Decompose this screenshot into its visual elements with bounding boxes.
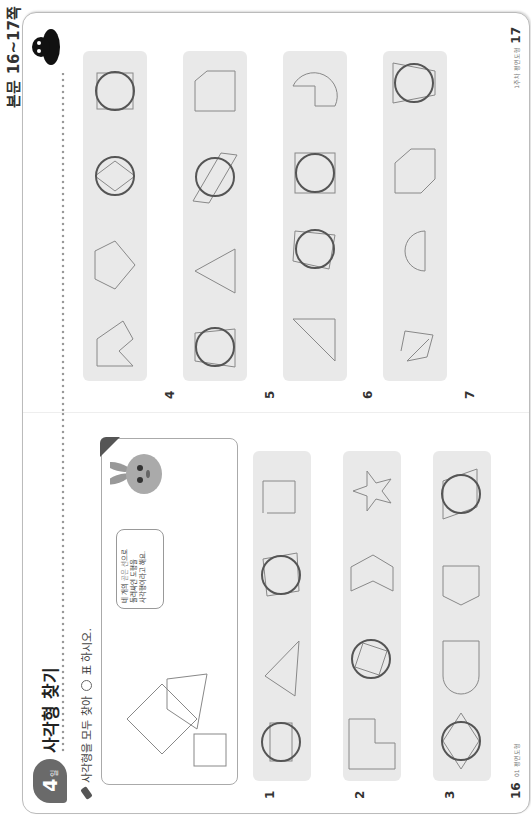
bubble-text: 사각형이라고 해요. (139, 551, 147, 603)
page-tag-right: 1주차 평면도형 (512, 47, 521, 89)
day-badge: 4일 (33, 759, 67, 803)
answer-circle (296, 154, 334, 192)
speech-bubble: 네 개의 곧은 선으로 둘러싸인 도형을 사각형이라고 해요. (116, 529, 164, 609)
page-number-right: 17 (509, 27, 523, 44)
dotted-rule-right (61, 73, 65, 413)
answer-circle (96, 72, 134, 110)
example-box: 네 개의 곧은 선으로 둘러싸인 도형을 사각형이라고 해요. (101, 438, 238, 785)
problem-number: 4 (163, 391, 177, 399)
answer-circle (296, 230, 334, 268)
answer-circle (442, 722, 480, 760)
bunny-icon (110, 444, 170, 504)
instruction-text: 사각형을 모두 찾아 (78, 696, 94, 783)
problem-5-strip (183, 51, 247, 381)
workbook-spread: 본문 16~17쪽 4일 사각형 찾기 사각형을 모두 찾아 표 하시오. (0, 0, 531, 822)
instruction: 사각형을 모두 찾아 표 하시오. (78, 628, 94, 799)
bubble-text: 둘러싸인 도형을 (130, 559, 138, 603)
problem-number: 7 (463, 391, 477, 399)
problem-number: 1 (263, 791, 277, 799)
problem-number: 3 (443, 791, 457, 799)
square-shape (194, 734, 226, 766)
problem-7-strip (383, 51, 447, 381)
workbook-sheet: 4일 사각형 찾기 사각형을 모두 찾아 표 하시오. (22, 12, 530, 814)
rhombus-shape (127, 684, 197, 754)
mascot-icon (29, 27, 63, 67)
answer-circle (96, 157, 134, 195)
problem-6-strip (283, 51, 347, 381)
bubble-text: 으로 (121, 549, 129, 561)
bubble-text: 네 개의 (121, 581, 129, 603)
trapezoid-shape (167, 674, 207, 729)
answer-circle (196, 328, 234, 366)
answer-circle (442, 475, 480, 513)
circle-mark-icon (81, 680, 92, 691)
problem-1-strip (253, 451, 311, 781)
bubble-highlight: 곧은 선 (121, 561, 129, 581)
problem-number: 5 (263, 391, 277, 399)
lesson-title: 사각형 찾기 (37, 667, 62, 753)
problem-3-strip (433, 451, 491, 781)
instruction-text-end: 표 하시오. (78, 628, 94, 675)
answer-circle (395, 64, 433, 102)
day-suffix: 일 (48, 770, 59, 777)
answer-circle (262, 723, 300, 761)
problem-number: 6 (361, 391, 375, 399)
pencil-icon (80, 786, 93, 800)
problem-number: 2 (353, 791, 367, 799)
page-tag-left: 01 평면도형 (512, 743, 521, 777)
page-divider (23, 412, 529, 413)
page-range-label: 본문 16~17쪽 (2, 6, 23, 108)
day-number: 4 (39, 778, 61, 791)
answer-circle (262, 556, 300, 594)
page-number-left: 16 (509, 782, 523, 799)
dotted-rule-left (61, 413, 65, 753)
problem-4-strip (83, 51, 147, 381)
problem-2-strip (343, 451, 401, 781)
